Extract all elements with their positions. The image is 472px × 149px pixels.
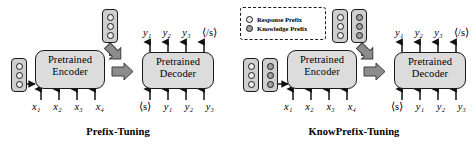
decoder-output-token-row: y₁ y₂ y₃ ⟨/s⟩ xyxy=(395,27,469,39)
prefix-dot-knowledge xyxy=(356,14,363,21)
decoder-title-line2: Decoder xyxy=(160,68,196,80)
token-y2-out: y₂ xyxy=(163,27,171,39)
caption-prefix-tuning: Prefix-Tuning xyxy=(0,126,236,137)
token-y2-out: y₂ xyxy=(415,27,423,39)
legend-label-response: Response Prefix xyxy=(257,16,302,23)
prefix-dot-knowledge xyxy=(267,72,274,79)
token-bos: ⟨s⟩ xyxy=(139,101,151,113)
decoder-output-token-row: y₁ y₂ y₃ ⟨/s⟩ xyxy=(143,27,217,39)
prefix-dot-response xyxy=(107,14,114,21)
prefix-dot-response xyxy=(337,23,344,30)
decoder-prefix-stack-response[interactable] xyxy=(332,9,348,43)
token-x2: x₂ xyxy=(305,101,313,113)
pretrained-decoder-box[interactable]: Pretrained Decoder xyxy=(142,52,214,89)
token-y1-out: y₁ xyxy=(395,27,403,39)
legend-row-knowledge: Knowledge Prefix xyxy=(246,25,320,32)
encoder-title-line1: Pretrained xyxy=(48,54,92,66)
prefix-dot-response xyxy=(107,32,114,39)
prefix-legend: Response Prefix Knowledge Prefix xyxy=(240,7,326,40)
token-y3-in: y₃ xyxy=(458,101,466,113)
prefix-dot-response xyxy=(337,32,344,39)
legend-dot-response xyxy=(246,16,253,23)
encoder-title-line1: Pretrained xyxy=(300,54,344,66)
token-x4: x₄ xyxy=(96,101,104,113)
decoder-prefix-stack-knowledge[interactable] xyxy=(351,9,367,43)
encoder-prefix-stack-response[interactable] xyxy=(11,58,27,92)
encoder-input-arrows xyxy=(293,89,347,100)
token-y3-out: y₃ xyxy=(182,27,190,39)
prefix-dot-response xyxy=(107,23,114,30)
prefix-dot-knowledge xyxy=(356,32,363,39)
block-arrow-diagonal xyxy=(102,40,127,65)
pretrained-encoder-box[interactable]: Pretrained Encoder xyxy=(35,50,105,89)
decoder-input-token-row: ⟨s⟩ y₁ y₂ y₃ xyxy=(391,101,466,113)
decoder-title-line1: Pretrained xyxy=(408,56,452,68)
decoder-prefix-stack-response[interactable] xyxy=(102,9,118,43)
block-arrow-horizontal xyxy=(112,63,133,80)
token-y2-in: y₂ xyxy=(185,101,193,113)
pretrained-encoder-box[interactable]: Pretrained Encoder xyxy=(287,50,357,89)
encoder-prefix-stack-knowledge[interactable] xyxy=(262,58,278,92)
token-x2: x₂ xyxy=(53,101,61,113)
token-y1-out: y₁ xyxy=(143,27,151,39)
panel-knowprefix-tuning: Response Prefix Knowledge Prefix xyxy=(236,0,472,149)
prefix-dot-knowledge xyxy=(356,23,363,30)
legend-dot-knowledge xyxy=(246,25,253,32)
prefix-dot-response xyxy=(16,72,23,79)
prefix-dot-knowledge xyxy=(267,81,274,88)
encoder-title-line2: Encoder xyxy=(52,66,88,78)
encoder-input-arrows xyxy=(41,89,95,100)
token-x4: x₄ xyxy=(348,101,356,113)
token-x1: x₁ xyxy=(32,101,40,113)
token-x1: x₁ xyxy=(284,101,292,113)
block-arrow-horizontal xyxy=(364,63,385,80)
legend-label-knowledge: Knowledge Prefix xyxy=(257,25,307,32)
encoder-title-line2: Encoder xyxy=(304,66,340,78)
block-arrow-diagonal xyxy=(354,40,379,65)
panel-prefix-tuning: Pretrained Encoder Pretrained Decoder x₁… xyxy=(0,0,236,149)
encoder-input-token-row: x₁ x₂ x₃ x₄ xyxy=(32,101,104,113)
legend-row-response: Response Prefix xyxy=(246,16,320,23)
token-y1-in: y₁ xyxy=(416,101,424,113)
token-x3: x₃ xyxy=(74,101,82,113)
prefix-dot-response xyxy=(16,63,23,70)
token-eos: ⟨/s⟩ xyxy=(454,27,469,39)
decoder-title-line2: Decoder xyxy=(412,68,448,80)
token-y2-in: y₂ xyxy=(437,101,445,113)
caption-knowprefix-tuning: KnowPrefix-Tuning xyxy=(236,126,472,137)
figure-root: Pretrained Encoder Pretrained Decoder x₁… xyxy=(0,0,472,149)
decoder-input-arrows xyxy=(150,89,204,100)
token-y1-in: y₁ xyxy=(164,101,172,113)
token-eos: ⟨/s⟩ xyxy=(202,27,217,39)
decoder-output-arrows xyxy=(150,42,204,52)
prefix-dot-response xyxy=(248,63,255,70)
prefix-dot-response xyxy=(16,81,23,88)
token-y3-in: y₃ xyxy=(206,101,214,113)
decoder-title-line1: Pretrained xyxy=(156,56,200,68)
pretrained-decoder-box[interactable]: Pretrained Decoder xyxy=(394,52,466,89)
decoder-input-arrows xyxy=(402,89,456,100)
decoder-output-arrows xyxy=(402,42,456,52)
prefix-dot-response xyxy=(248,72,255,79)
prefix-dot-knowledge xyxy=(267,63,274,70)
encoder-input-token-row: x₁ x₂ x₃ x₄ xyxy=(284,101,356,113)
prefix-dot-response xyxy=(337,14,344,21)
decoder-input-token-row: ⟨s⟩ y₁ y₂ y₃ xyxy=(139,101,214,113)
token-x3: x₃ xyxy=(326,101,334,113)
token-y3-out: y₃ xyxy=(434,27,442,39)
encoder-prefix-stack-response[interactable] xyxy=(243,58,259,92)
prefix-dot-response xyxy=(248,81,255,88)
token-bos: ⟨s⟩ xyxy=(391,101,403,113)
